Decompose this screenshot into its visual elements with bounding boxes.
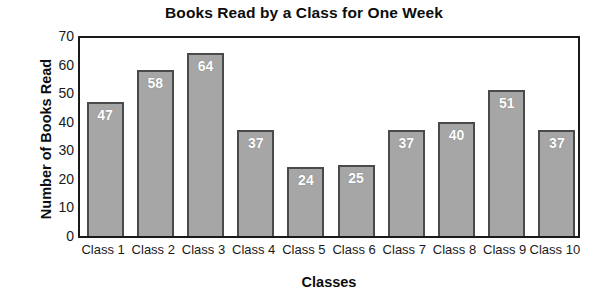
bar-value-label: 24	[289, 173, 322, 187]
y-tick-label: 70	[34, 29, 74, 43]
bar-value-label: 47	[89, 108, 122, 122]
plot-area: 47586437242537405137	[78, 36, 580, 238]
x-tick-label: Class 10	[520, 243, 590, 256]
bar-value-label: 40	[440, 128, 473, 142]
bars-layer: 47586437242537405137	[80, 38, 578, 236]
bar: 51	[488, 90, 525, 236]
y-tick-label: 60	[34, 58, 74, 72]
bar: 24	[287, 167, 324, 236]
y-tick-label: 30	[34, 143, 74, 157]
bar-value-label: 51	[490, 96, 523, 110]
bar-value-label: 64	[189, 59, 222, 73]
y-tick-label: 0	[34, 229, 74, 243]
bar: 40	[438, 122, 475, 236]
bar: 47	[87, 102, 124, 236]
bar-value-label: 25	[340, 171, 373, 185]
bar: 58	[137, 70, 174, 236]
bar: 37	[538, 130, 575, 236]
bar: 25	[338, 165, 375, 236]
bar-value-label: 37	[390, 136, 423, 150]
chart-title: Books Read by a Class for One Week	[0, 4, 608, 22]
bar-value-label: 37	[540, 136, 573, 150]
bar: 37	[237, 130, 274, 236]
y-tick-label: 10	[34, 200, 74, 214]
y-tick-label: 50	[34, 86, 74, 100]
bar-value-label: 58	[139, 76, 172, 90]
bar-chart: Books Read by a Class for One Week Numbe…	[0, 0, 608, 306]
bar: 37	[388, 130, 425, 236]
x-axis-title: Classes	[78, 274, 580, 290]
bar-value-label: 37	[239, 136, 272, 150]
bar: 64	[187, 53, 224, 236]
y-tick-label: 20	[34, 172, 74, 186]
y-tick-label: 40	[34, 115, 74, 129]
